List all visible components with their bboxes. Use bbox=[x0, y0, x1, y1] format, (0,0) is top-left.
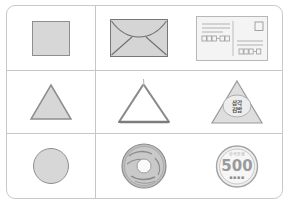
coin-icon: 한국은행 500 ▪▪▪▪ bbox=[214, 144, 260, 189]
shape-worksheet: 삼각 김밥 한국은행 50 bbox=[6, 5, 283, 199]
onigiri: 삼각 김밥 bbox=[209, 78, 265, 126]
onigiri-icon: 삼각 김밥 bbox=[209, 78, 265, 126]
cell-circle-prototype bbox=[7, 134, 95, 198]
envelope bbox=[110, 19, 168, 57]
donut-icon bbox=[119, 142, 169, 190]
donut bbox=[119, 142, 169, 190]
triangle-instrument bbox=[114, 77, 174, 127]
coin-value: 500 bbox=[221, 157, 252, 175]
onigiri-label-line1: 삼각 bbox=[232, 99, 243, 107]
cell-circle-examples: 한국은행 500 ▪▪▪▪ bbox=[96, 134, 282, 198]
coin: 한국은행 500 ▪▪▪▪ bbox=[214, 144, 260, 189]
triangle-icon bbox=[29, 83, 73, 121]
coin-bottom-text: ▪▪▪▪ bbox=[229, 174, 245, 180]
postcard-detail-icon bbox=[197, 17, 267, 60]
onigiri-label-line2: 김밥 bbox=[232, 106, 243, 114]
envelope-flap-icon bbox=[110, 19, 168, 57]
triangle-instrument-icon bbox=[114, 77, 174, 127]
square-shape bbox=[32, 21, 70, 56]
cell-square-prototype bbox=[7, 6, 95, 70]
circle-shape bbox=[33, 148, 69, 184]
cell-triangle-examples: 삼각 김밥 bbox=[96, 71, 282, 133]
cell-triangle-prototype bbox=[7, 71, 95, 133]
postcard bbox=[196, 16, 268, 61]
triangle-shape bbox=[29, 83, 73, 121]
cell-square-examples bbox=[96, 6, 282, 70]
